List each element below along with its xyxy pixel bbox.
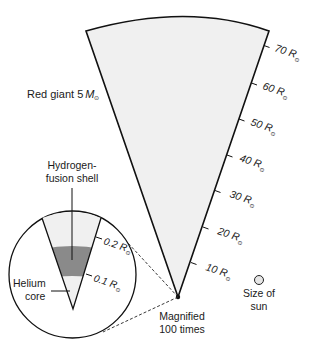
sun-size-label: Size of sun <box>243 287 275 312</box>
svg-text:50R⊙: 50R⊙ <box>249 115 279 137</box>
magnified-inset: 0.2R⊙ 0.1R⊙ Helium core <box>9 188 136 338</box>
svg-text:20R⊙: 20R⊙ <box>215 224 246 246</box>
svg-text:fusion shell: fusion shell <box>46 172 99 184</box>
red-giant-diagram: Red giant 5M⊙ 70R⊙ 60R⊙ 50R⊙ 40R⊙ 30R⊙ <box>0 0 311 348</box>
svg-text:Size of: Size of <box>243 287 275 299</box>
svg-text:core: core <box>25 290 46 302</box>
svg-text:100 times: 100 times <box>159 323 205 335</box>
svg-text:10R⊙: 10R⊙ <box>204 260 234 282</box>
svg-text:30R⊙: 30R⊙ <box>228 187 258 209</box>
sun-size-icon <box>255 276 264 285</box>
hydrogen-shell-label: Hydrogen- fusion shell <box>46 159 99 184</box>
svg-text:Hydrogen-: Hydrogen- <box>47 159 97 171</box>
svg-text:Helium: Helium <box>13 277 46 289</box>
svg-text:70R⊙: 70R⊙ <box>273 41 303 63</box>
red-giant-label: Red giant 5M⊙ <box>27 88 99 101</box>
svg-text:sun: sun <box>251 300 268 312</box>
svg-text:60R⊙: 60R⊙ <box>261 79 291 101</box>
magnified-label: Magnified 100 times <box>159 310 205 335</box>
svg-text:40R⊙: 40R⊙ <box>238 151 268 173</box>
svg-text:Magnified: Magnified <box>159 310 205 322</box>
